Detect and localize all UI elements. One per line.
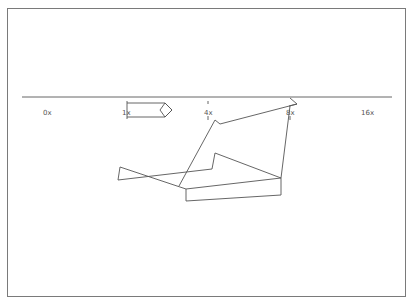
- bar-1x: [127, 103, 172, 117]
- axis-label-16x: 16x: [361, 109, 374, 117]
- axis-label-4x: 4x: [204, 109, 213, 117]
- upper-slant-line: [179, 104, 297, 186]
- diagram-canvas: [0, 0, 414, 302]
- zigzag-shape: [118, 153, 281, 201]
- axis-label-0x: 0x: [43, 109, 52, 117]
- axis-label-1x: 1x: [122, 109, 131, 117]
- left-triangle: [120, 167, 186, 189]
- axis-label-8x: 8x: [286, 109, 295, 117]
- diamond-icon: [160, 103, 172, 117]
